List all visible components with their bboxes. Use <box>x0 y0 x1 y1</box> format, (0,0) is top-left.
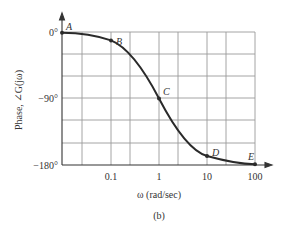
y-axis-label: Phase, ∠G(jω) <box>13 70 25 130</box>
y-tick-0: 0° <box>49 27 58 38</box>
x-axis-label: ω (rad/sec) <box>137 189 181 201</box>
point-label-a: A <box>65 21 73 32</box>
x-tick-100: 100 <box>248 171 263 182</box>
y-tick-minus90: −90° <box>38 93 58 104</box>
point-label-d: D <box>211 147 220 158</box>
point-label-b: B <box>116 36 122 47</box>
point-label-e: E <box>247 151 254 162</box>
point-label-c: C <box>163 86 170 97</box>
x-tick-10: 10 <box>202 171 212 182</box>
y-tick-minus180: −180° <box>33 160 58 171</box>
x-tick-1: 1 <box>157 171 162 182</box>
x-tick-0.1: 0.1 <box>105 171 118 182</box>
phase-plot: A B C D E 0° −90° −180° 0.1 1 10 100 ω (… <box>0 0 289 229</box>
figure-caption: (b) <box>153 210 165 222</box>
data-points <box>60 31 257 166</box>
